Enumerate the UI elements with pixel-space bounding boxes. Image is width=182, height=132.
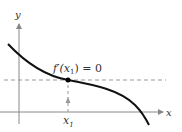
x-axis-label: x	[166, 107, 172, 118]
critical-point	[66, 78, 71, 83]
function-graph: y x f′(x1) = 0 x1	[0, 0, 182, 132]
function-curve	[8, 44, 149, 125]
x1-label-sub: 1	[69, 121, 73, 129]
y-axis-label: y	[14, 9, 21, 20]
derivative-label-tail: ) = 0	[75, 62, 103, 75]
x1-tick-label: x1	[63, 114, 74, 129]
arrow-up-icon	[66, 97, 71, 103]
derivative-label: f′(x1) = 0	[52, 62, 102, 76]
derivative-label-main: f′(x	[52, 62, 71, 75]
